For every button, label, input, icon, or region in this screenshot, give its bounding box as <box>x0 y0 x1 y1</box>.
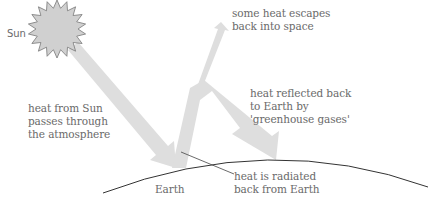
escape-heat-arrow <box>196 22 229 91</box>
radiated-label: heat is radiated back from Earth <box>234 170 320 196</box>
reflected-label: heat reflected back to Earth by 'greenho… <box>250 87 351 126</box>
escape-label: some heat escapes back into space <box>232 7 330 33</box>
earth-label: Earth <box>155 183 184 196</box>
diagram-canvas <box>0 0 433 202</box>
incoming-label: heat from Sun passes through the atmosph… <box>28 102 110 141</box>
sun-label: Sun <box>7 27 26 40</box>
greenhouse-diagram: Sun some heat escapes back into space he… <box>0 0 433 202</box>
